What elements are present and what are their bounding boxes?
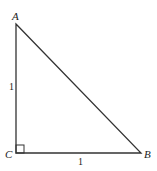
side-label-cb: 1 (78, 156, 83, 167)
vertex-label-c: C (5, 148, 13, 160)
vertex-label-b: B (144, 148, 151, 160)
triangle-abc (16, 24, 141, 153)
vertex-label-a: A (11, 10, 19, 22)
triangle-diagram: A C B 1 1 (0, 0, 157, 171)
side-label-ac: 1 (9, 81, 14, 92)
right-angle-marker (16, 145, 24, 153)
